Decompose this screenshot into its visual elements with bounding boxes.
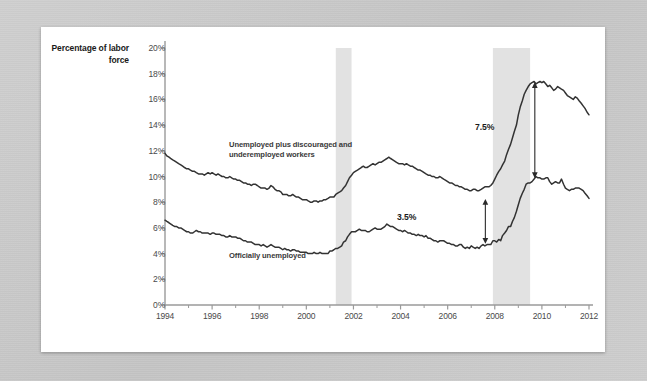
page-background: Percentage of labor force 0%2%4%6%8%10%1… (0, 0, 647, 381)
official-series-label: Officially unemployed (229, 251, 306, 261)
y-tick-label: 4% (135, 249, 165, 259)
y-tick-label: 6% (135, 223, 165, 233)
recession-band-1 (493, 48, 530, 305)
y-axis-tick-labels: 0%2%4%6%8%10%12%14%16%18%20% (133, 27, 165, 352)
y-tick-label: 16% (135, 94, 165, 104)
x-tick-label: 2000 (297, 311, 315, 321)
x-tick-label: 1994 (156, 311, 174, 321)
gap-2007-label: 3.5% (397, 212, 416, 222)
y-tick-label: 18% (135, 69, 165, 79)
y-tick-label: 12% (135, 146, 165, 156)
y-tick-label: 0% (135, 300, 165, 310)
x-tick-label: 2002 (344, 311, 362, 321)
x-tick-label: 2012 (580, 311, 598, 321)
figure-card: Percentage of labor force 0%2%4%6%8%10%1… (41, 27, 605, 352)
plot-area (41, 27, 605, 352)
y-axis-title: Percentage of labor force (51, 43, 129, 66)
y-tick-label: 8% (135, 197, 165, 207)
x-tick-label: 2004 (391, 311, 409, 321)
gap-2010-label: 7.5% (475, 122, 494, 132)
x-tick-label: 1996 (203, 311, 221, 321)
y-tick-label: 10% (135, 172, 165, 182)
x-tick-label: 2008 (486, 311, 504, 321)
y-tick-label: 14% (135, 120, 165, 130)
recession-band-0 (336, 48, 352, 305)
x-tick-label: 1998 (250, 311, 268, 321)
x-tick-label: 2010 (533, 311, 551, 321)
y-tick-label: 2% (135, 274, 165, 284)
x-tick-label: 2006 (439, 311, 457, 321)
unemployment-chart: Percentage of labor force 0%2%4%6%8%10%1… (41, 27, 605, 352)
y-tick-label: 20% (135, 43, 165, 53)
broad-series-label: Unemployed plus discouraged and underemp… (229, 140, 352, 160)
